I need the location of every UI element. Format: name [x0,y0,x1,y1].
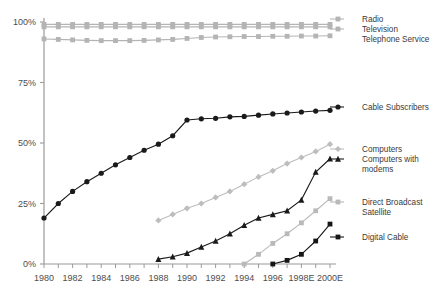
data-point [70,38,75,43]
data-point [156,24,161,29]
data-point [185,24,190,29]
x-tick-label: 2000E [317,273,343,283]
data-point [299,34,304,39]
y-tick-label: 100% [13,17,36,27]
data-point [127,38,132,43]
data-point [42,37,47,42]
data-point [142,38,147,43]
data-point [113,162,118,167]
data-point [99,24,104,29]
data-point [242,34,247,39]
data-point [285,24,290,29]
data-point [270,262,275,267]
data-point [56,24,61,29]
chart-container: 0%25%50%75%100% 198019821984198619881990… [0,0,437,299]
y-tick-label: 0% [23,259,36,269]
data-point [285,110,290,115]
data-point [228,24,233,29]
data-point [336,200,341,205]
data-point [313,24,318,29]
data-point [328,222,333,227]
data-point [227,114,232,119]
data-point [213,24,218,29]
data-point [228,34,233,39]
data-point [127,155,132,160]
data-point [270,241,275,246]
data-point [270,34,275,39]
x-tick-label: 1990 [177,273,197,283]
data-point [184,117,189,122]
data-point [285,258,290,263]
data-point [285,34,290,39]
legend-label: Cable Subscribers [362,103,429,112]
data-point [156,142,161,147]
data-point [127,24,132,29]
data-point [327,108,332,113]
data-point [199,35,204,40]
legend-label: modems [362,165,393,174]
data-point [299,24,304,29]
legend-item[interactable]: Satellite [362,208,392,217]
data-point [256,24,261,29]
data-point [256,252,261,257]
x-tick-label: 1980 [34,273,54,283]
legend-item[interactable]: Telephone Service [362,35,430,44]
data-point [84,179,89,184]
data-point [335,104,340,109]
data-point [142,148,147,153]
data-point [70,189,75,194]
data-point [299,109,304,114]
data-point [99,171,104,176]
line-chart: 0%25%50%75%100% 198019821984198619881990… [0,0,437,299]
data-point [256,113,261,118]
data-point [313,108,318,113]
data-point [213,35,218,40]
data-point [270,24,275,29]
data-point [85,24,90,29]
legend-label: Television [362,25,398,34]
data-point [242,24,247,29]
x-tick-label: 1984 [91,273,111,283]
data-point [199,116,204,121]
data-point [113,24,118,29]
data-point [313,239,318,244]
x-tick-label: 1998E [288,273,314,283]
data-point [185,36,190,41]
data-point [299,252,304,257]
data-point [313,208,318,213]
legend-label: Satellite [362,208,392,217]
legend-label: Computers with [362,155,419,164]
data-point [242,262,247,267]
data-point [299,220,304,225]
data-point [42,24,47,29]
data-point [56,37,61,42]
data-point [213,116,218,121]
data-point [336,17,341,22]
data-point [70,24,75,29]
legend-label: Digital Cable [362,233,409,242]
data-point [336,235,341,240]
data-point [199,24,204,29]
data-point [170,37,175,42]
x-tick-label: 1988 [148,273,168,283]
x-tick-label: 1996 [263,273,283,283]
data-point [170,24,175,29]
data-point [170,133,175,138]
data-point [336,27,341,32]
data-point [156,38,161,43]
data-point [113,38,118,43]
x-tick-label: 1982 [63,273,83,283]
series-television [42,24,333,29]
y-tick-label: 50% [18,138,36,148]
data-point [56,201,61,206]
data-point [328,33,333,38]
data-point [328,196,333,201]
data-point [99,38,104,43]
legend-label: Telephone Service [362,35,430,44]
data-point [313,34,318,39]
legend-label: Computers [362,145,402,154]
y-tick-label: 25% [18,199,36,209]
data-point [85,38,90,43]
x-tick-label: 1994 [234,273,254,283]
legend-item[interactable]: modems [362,165,393,174]
